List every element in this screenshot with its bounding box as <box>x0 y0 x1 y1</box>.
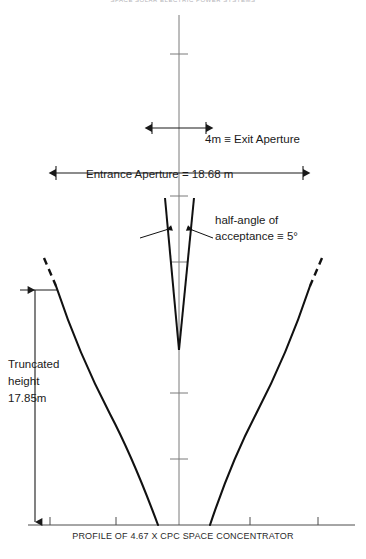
horizontal-axis <box>28 517 355 525</box>
exit-aperture-label: 4m ≡ Exit Aperture <box>205 133 300 145</box>
figure-header: SPACE SOLAR ELECTRIC POWER SYSTEMS <box>0 0 366 3</box>
vertical-axis <box>170 15 188 525</box>
figure-caption: PROFILE OF 4.67 X CPC SPACE CONCENTRATOR <box>0 531 366 541</box>
cpc-profile-svg <box>0 0 366 559</box>
half-angle-leader-lines <box>140 228 213 238</box>
truncated-height-label-line1: Truncated <box>8 358 59 370</box>
truncated-height-label-line2: height <box>8 375 39 387</box>
entrance-aperture-label: Entrance Aperture = 18.68 m <box>86 168 233 180</box>
right-cpc-profile <box>210 258 322 525</box>
truncated-height-label-line3: 17.85m <box>8 392 46 404</box>
half-angle-label-line2: acceptance ≡ 5° <box>215 230 298 242</box>
cpc-profile-figure: SPACE SOLAR ELECTRIC POWER SYSTEMS 4m ≡ … <box>0 0 366 559</box>
half-angle-label-line1: half-angle of <box>215 214 278 226</box>
truncated-height-dimension <box>20 290 58 522</box>
left-cpc-profile <box>44 258 158 525</box>
